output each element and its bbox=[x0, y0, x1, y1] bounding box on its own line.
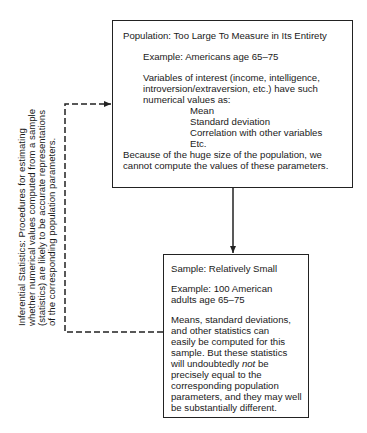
text-post-not: be bbox=[255, 358, 268, 369]
sample-body-line: Means, standard deviations, bbox=[171, 314, 302, 325]
conclusion-line-1: Because of the huge size of the populati… bbox=[123, 149, 344, 160]
emphasis-not: not bbox=[242, 358, 255, 369]
sample-body-line: easily be computed for this bbox=[171, 336, 302, 347]
side-label-line: of the corresponding population paramete… bbox=[47, 86, 57, 326]
parameter-sd: Standard deviation bbox=[123, 116, 344, 127]
population-example: Example: Americans age 65–75 bbox=[123, 51, 344, 62]
sample-tail-line: precisely equal to the bbox=[171, 369, 302, 380]
variables-line-3: numerical values as: bbox=[123, 94, 344, 105]
variables-line-2: introversion/extraversion, etc.) have su… bbox=[123, 83, 344, 94]
sample-tail-line: be substantially different. bbox=[171, 402, 302, 413]
sample-box: Sample: Relatively Small Example: 100 Am… bbox=[163, 254, 309, 418]
text-pre-not: will undoubtedly bbox=[171, 358, 242, 369]
variables-line-1: Variables of interest (income, intellige… bbox=[123, 72, 344, 83]
conclusion-line-2: cannot compute the values of these param… bbox=[123, 160, 344, 171]
sample-title: Sample: Relatively Small bbox=[171, 263, 302, 274]
sample-tail-line: corresponding population bbox=[171, 380, 302, 391]
population-title: Population: Too Large To Measure in Its … bbox=[123, 30, 344, 41]
sample-not-line: will undoubtedly not be bbox=[171, 358, 302, 369]
population-box: Population: Too Large To Measure in Its … bbox=[112, 20, 353, 188]
sample-body-line: and other statistics can bbox=[171, 325, 302, 336]
inferential-statistics-label: Inferential Statistics: Procedures for e… bbox=[17, 86, 57, 326]
parameter-correlation: Correlation with other variables bbox=[123, 127, 344, 138]
parameter-etc: Etc. bbox=[123, 138, 344, 149]
parameter-mean: Mean bbox=[123, 105, 344, 116]
sample-tail-line: parameters, and they may well bbox=[171, 391, 302, 402]
sample-example-line-1: Example: 100 American bbox=[171, 283, 302, 294]
sample-body-line: sample. But these statistics bbox=[171, 347, 302, 358]
sample-example-line-2: adults age 65–75 bbox=[171, 294, 302, 305]
